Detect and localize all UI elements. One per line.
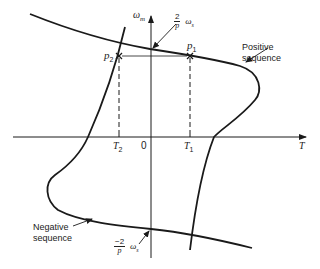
negative-label-line2: sequence	[33, 233, 72, 244]
positive-sequence-curve	[30, 14, 259, 250]
p2-subscript: 2	[110, 56, 114, 63]
pos-sync-arrow	[153, 24, 176, 48]
t-axis-label: T	[299, 141, 305, 151]
fraction-denominator: p	[118, 247, 122, 255]
t2-label: T2	[113, 141, 122, 153]
positive-sequence-label: Positive sequence	[242, 42, 281, 64]
p1-label: p1	[187, 40, 196, 53]
positive-label-line2: sequence	[242, 53, 281, 64]
t1-subscript: 1	[190, 146, 194, 153]
positive-label-line1: Positive	[242, 42, 281, 53]
omega-symbol: ω	[133, 9, 140, 20]
negative-label-line1: Negative	[33, 222, 72, 233]
t2-subscript: 2	[119, 146, 123, 153]
omega-s-subscript: s	[192, 22, 194, 28]
fraction-denominator: p	[175, 22, 179, 30]
pos-sync-speed-label: 2 p ωs	[174, 13, 194, 30]
p2-label: p2	[104, 50, 113, 63]
neg-sync-arrow	[139, 231, 149, 244]
t1-label: T1	[184, 141, 193, 153]
omega-s-subscript: s	[136, 247, 138, 253]
omega-axis-label: ωm	[133, 10, 145, 23]
negative-sequence-label: Negative sequence	[33, 222, 72, 244]
pos-sync-fraction: 2 p	[174, 13, 180, 30]
neg-sync-speed-label: −2 p ωs	[114, 238, 139, 255]
origin-label: 0	[141, 141, 147, 151]
p1-subscript: 1	[193, 46, 197, 53]
omega-subscript: m	[140, 15, 145, 23]
neg-sync-fraction: −2 p	[114, 238, 125, 255]
negative-label-arrow	[73, 219, 92, 226]
